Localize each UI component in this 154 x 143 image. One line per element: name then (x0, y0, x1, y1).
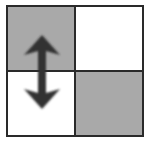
vertical-double-arrow-icon (20, 33, 64, 111)
grid-cell-bottom-right (75, 71, 142, 135)
grid-cell-top-right (75, 7, 142, 71)
